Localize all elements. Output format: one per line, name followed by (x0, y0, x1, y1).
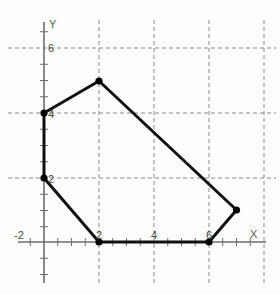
vertex-point (95, 77, 102, 84)
x-axis-label: X (250, 228, 258, 240)
y-tick-label-2: 2 (48, 173, 54, 185)
y-axis-label: Y (49, 18, 57, 30)
polygon-vertices (40, 77, 240, 245)
polygon-outline (44, 81, 237, 242)
polygon-shape (44, 81, 237, 242)
axes-lines (18, 22, 266, 283)
x-tick-label-4: 4 (151, 229, 157, 241)
x-tick-label-2: 2 (96, 229, 102, 241)
coordinate-plane-figure: 6 4 2 -2 2 4 6 Y X (0, 0, 280, 294)
vertex-point (40, 109, 47, 116)
grid-lines (0, 20, 276, 283)
vertex-point (40, 174, 47, 181)
y-tick-label-6: 6 (48, 42, 54, 54)
axis-tick-marks (30, 32, 250, 275)
x-tick-label-6: 6 (206, 229, 212, 241)
coordinate-plot-svg: 6 4 2 -2 2 4 6 Y X (0, 0, 280, 294)
y-tick-label-4: 4 (48, 108, 54, 120)
vertex-point (233, 206, 240, 213)
x-tick-label-neg2: -2 (14, 229, 24, 241)
